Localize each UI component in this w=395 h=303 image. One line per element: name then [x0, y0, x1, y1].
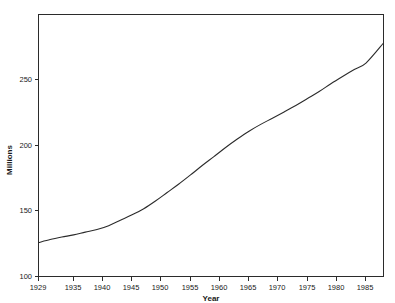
x-tick-label-0: 1929 — [30, 283, 47, 292]
y-axis-ticks — [35, 80, 39, 277]
line-chart-plot: 100 150 200 250 Millions 1929 1935 194 — [0, 0, 395, 303]
x-tick-label-1: 1935 — [65, 283, 82, 292]
x-axis-ticks — [39, 277, 366, 281]
x-tick-label-11: 1985 — [357, 283, 374, 292]
x-tick-label-5: 1955 — [182, 283, 199, 292]
x-tick-label-7: 1965 — [240, 283, 257, 292]
x-axis-tick-labels: 1929 1935 1940 1945 1950 1955 1960 1965 … — [30, 283, 374, 292]
x-tick-label-10: 1980 — [328, 283, 345, 292]
x-tick-label-3: 1945 — [123, 283, 140, 292]
y-tick-label-0: 100 — [19, 272, 32, 281]
x-tick-label-2: 1940 — [94, 283, 111, 292]
plot-frame — [39, 15, 384, 277]
x-tick-label-4: 1950 — [152, 283, 169, 292]
y-tick-label-1: 150 — [19, 206, 32, 215]
x-tick-label-8: 1970 — [269, 283, 286, 292]
y-tick-label-2: 200 — [19, 141, 32, 150]
x-axis-title: Year — [203, 294, 220, 303]
chart-figure: 100 150 200 250 Millions 1929 1935 194 — [0, 0, 395, 303]
x-tick-label-6: 1960 — [211, 283, 228, 292]
population-series-line — [39, 43, 384, 243]
y-axis-tick-labels: 100 150 200 250 — [19, 75, 32, 281]
y-axis-title: Millions — [5, 145, 14, 175]
y-tick-label-3: 250 — [19, 75, 32, 84]
x-tick-label-9: 1975 — [299, 283, 316, 292]
